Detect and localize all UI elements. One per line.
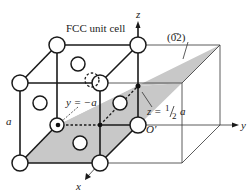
z-axis-label: z [135,8,141,20]
atom-corner [130,37,146,53]
edge-length-label: a [6,115,12,127]
z-intercept-prefix: z = [146,105,161,117]
fcc-title: FCC unit cell [66,22,125,34]
y-intercept-label: y = −a [65,96,97,108]
z-axis-arrow-icon [136,21,141,28]
y-axis-arrow-icon [232,123,239,128]
atom-face-right [113,96,127,110]
atom-face-top [71,57,85,71]
atom-face-left [33,96,47,110]
atom-corner [12,155,28,171]
atom-corner [92,75,108,91]
z-intercept-point [136,84,141,89]
plane-label-leader [183,42,188,59]
fcc-plane-diagram: FCC unit cell (0̅2) z y x a y = −a O′ z … [0,0,250,196]
y-axis-label: y [240,119,246,131]
atom-corner-origin [130,117,146,133]
atom-corner [49,37,65,53]
plane-miller-label: (0̅2) [167,31,186,44]
x-axis-label: x [75,180,81,192]
z-intercept-label: z = 1 2 a [146,103,186,121]
cell-corner-point [98,123,103,128]
svg-text:z =: z = [146,105,161,117]
atom-corner [92,155,108,171]
z-intercept-suffix: a [180,105,186,117]
origin-label: O′ [146,123,157,135]
atom-face-front [73,136,87,150]
z-intercept-numerator: 1 [165,103,170,113]
atom-corner [12,75,28,91]
z-intercept-denominator: 2 [172,111,177,121]
y-intercept-point [56,123,61,128]
